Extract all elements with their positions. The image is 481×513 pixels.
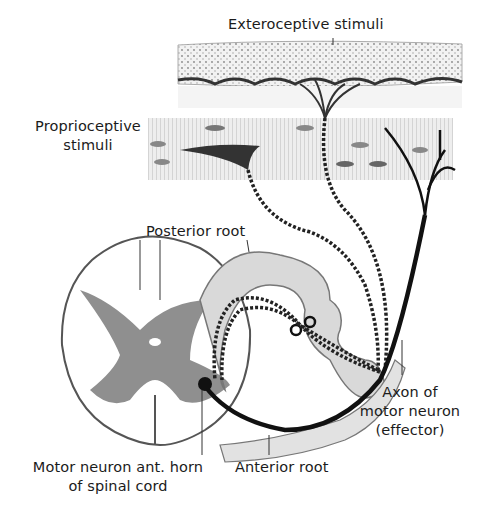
label-exteroceptive-stimuli: Exteroceptive stimuli — [228, 15, 384, 34]
label-proprioceptive-line2: stimuli — [28, 136, 148, 155]
motor-neuron-body — [198, 377, 212, 391]
label-proprioceptive-line1: Proprioceptive — [28, 117, 148, 136]
skin-layer — [178, 38, 462, 108]
label-posterior-root: Posterior root — [146, 222, 245, 241]
label-axon-of-motor-neuron: Axon of motor neuron (effector) — [350, 383, 470, 440]
label-motor-neuron-line1: Motor neuron ant. horn — [18, 458, 218, 477]
label-motor-neuron-ant-horn: Motor neuron ant. horn of spinal cord — [18, 458, 218, 496]
label-axon-line3: (effector) — [350, 421, 470, 440]
label-anterior-root: Anterior root — [235, 458, 329, 477]
label-proprioceptive-stimuli: Proprioceptive stimuli — [28, 117, 148, 155]
muscle-layer — [148, 118, 453, 180]
label-axon-line2: motor neuron — [350, 402, 470, 421]
label-axon-line1: Axon of — [350, 383, 470, 402]
label-motor-neuron-line2: of spinal cord — [18, 477, 218, 496]
